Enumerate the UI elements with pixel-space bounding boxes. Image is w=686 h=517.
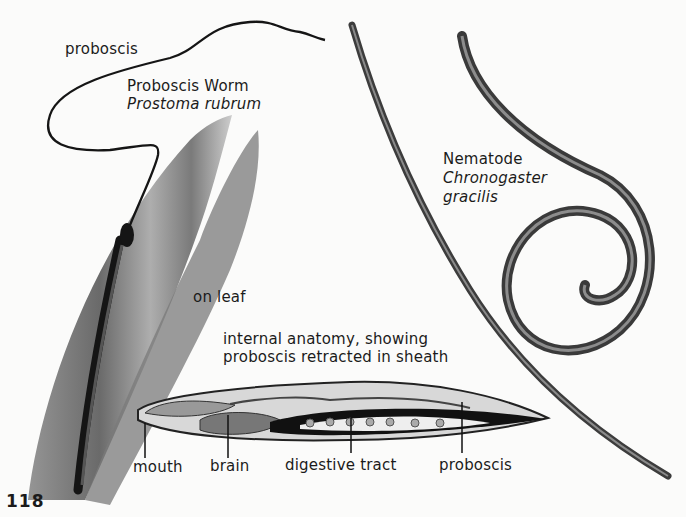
- nematode-genus: Chronogaster: [443, 169, 547, 187]
- nematode-common-name: Nematode: [443, 150, 523, 168]
- proboscis-worm-scientific-name: Prostoma rubrum: [127, 95, 261, 113]
- anatomy-label-brain: brain: [210, 457, 250, 475]
- anatomy-label-mouth: mouth: [133, 458, 183, 476]
- anatomy-caption-line2: proboscis retracted in sheath: [223, 348, 448, 366]
- proboscis-label: proboscis: [65, 40, 138, 58]
- internal-anatomy-drawing: [138, 382, 548, 458]
- page-number: 118: [6, 492, 45, 510]
- anatomy-label-digestive-tract: digestive tract: [285, 456, 397, 474]
- proboscis-worm-common-name: Proboscis Worm: [127, 77, 249, 95]
- anatomy-label-proboscis: proboscis: [439, 456, 512, 474]
- leaf-drawing: [28, 115, 259, 505]
- illustration: [0, 0, 686, 517]
- nematode-species: gracilis: [443, 188, 498, 206]
- anatomy-caption-line1: internal anatomy, showing: [223, 330, 428, 348]
- on-leaf-label: on leaf: [193, 288, 246, 306]
